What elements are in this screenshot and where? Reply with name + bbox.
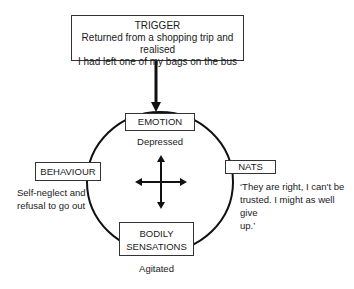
emotion-box: EMOTION [125,113,195,131]
nats-title: NATS [238,161,263,172]
cbt-diagram: TRIGGER Returned from a shopping trip an… [0,0,354,289]
behaviour-line-1: Self-neglect and [17,186,97,199]
nats-description: ‘They are right, I can't be trusted. I m… [240,180,352,232]
emotion-title: EMOTION [138,116,182,127]
behaviour-line-2: refusal to go out [17,199,97,212]
bodily-title-line-1: BODILY [120,227,193,240]
four-way-arrow-icon [135,155,187,209]
trigger-title: TRIGGER [72,20,243,32]
emotion-description: Depressed [125,135,195,148]
behaviour-title: BEHAVIOUR [40,166,95,177]
nats-line-2: trusted. I might as well give [240,193,352,219]
trigger-line-2: I had left one of my bags on the bus [72,56,243,68]
nats-line-1: ‘They are right, I can't be [240,180,352,193]
bodily-title-line-2: SENSATIONS [120,240,193,253]
bodily-sensations-box: BODILY SENSATIONS [119,222,194,256]
trigger-box: TRIGGER Returned from a shopping trip an… [71,15,244,61]
bodily-description: Agitated [119,262,194,275]
nats-box: NATS [225,160,276,174]
trigger-to-emotion-arrow [151,61,161,112]
behaviour-box: BEHAVIOUR [35,162,101,181]
trigger-line-1: Returned from a shopping trip and realis… [72,32,243,56]
nats-line-3: up.’ [240,219,352,232]
behaviour-description: Self-neglect and refusal to go out [17,186,97,212]
